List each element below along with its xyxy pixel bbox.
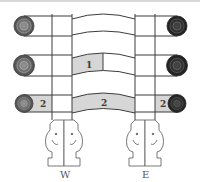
right-spirals [167,16,188,113]
spiral-icon [168,95,186,113]
spiral-icon [15,95,33,113]
board-diagram: 1 2 2 2 W E [0,0,200,182]
bottom-left-label: 2 [40,99,46,109]
spiral-icon [14,16,34,36]
spiral-icon [14,55,35,76]
east-label: E [142,169,149,180]
bottom-right-label: 2 [160,99,166,109]
west-elephant-pair-icon [46,120,83,166]
bottom-middle-label: 2 [101,98,107,108]
west-label: W [60,169,71,180]
spiral-icon [167,55,188,76]
spiral-icon [167,16,187,36]
east-elephant-pair-icon [127,120,164,166]
middle-row-label: 1 [86,60,92,70]
left-spirals [14,16,35,113]
